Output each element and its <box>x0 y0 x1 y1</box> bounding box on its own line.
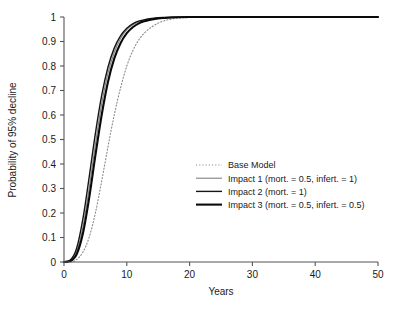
y-axis-title: Probability of 95% decline <box>7 82 18 198</box>
y-tick-label: 0.5 <box>42 134 56 145</box>
y-tick-label: 0.8 <box>42 61 56 72</box>
x-tick-label: 50 <box>372 269 384 280</box>
chart-background <box>0 0 408 310</box>
y-tick-label: 0 <box>50 257 56 268</box>
x-tick-label: 20 <box>184 269 196 280</box>
legend-label-4: Impact 3 (mort. = 0.5, infert. = 0.5) <box>228 200 365 210</box>
y-tick-label: 0.4 <box>42 159 56 170</box>
y-tick-label: 1 <box>50 12 56 23</box>
y-tick-label: 0.6 <box>42 110 56 121</box>
legend-label-1: Base Model <box>228 160 276 170</box>
y-tick-label: 0.9 <box>42 36 56 47</box>
legend-label-2: Impact 1 (mort. = 0.5, infert. = 1) <box>228 174 357 184</box>
x-tick-label: 30 <box>247 269 259 280</box>
y-tick-label: 0.7 <box>42 85 56 96</box>
chart-figure: 00.10.20.30.40.50.60.70.80.91 0102030405… <box>0 0 408 310</box>
y-tick-label: 0.3 <box>42 183 56 194</box>
x-axis-title: Years <box>208 286 233 297</box>
y-tick-label: 0.2 <box>42 208 56 219</box>
x-tick-label: 10 <box>121 269 133 280</box>
x-tick-label: 0 <box>61 269 67 280</box>
y-tick-label: 0.1 <box>42 232 56 243</box>
legend-label-3: Impact 2 (mort. = 1) <box>228 187 307 197</box>
x-tick-label: 40 <box>310 269 322 280</box>
